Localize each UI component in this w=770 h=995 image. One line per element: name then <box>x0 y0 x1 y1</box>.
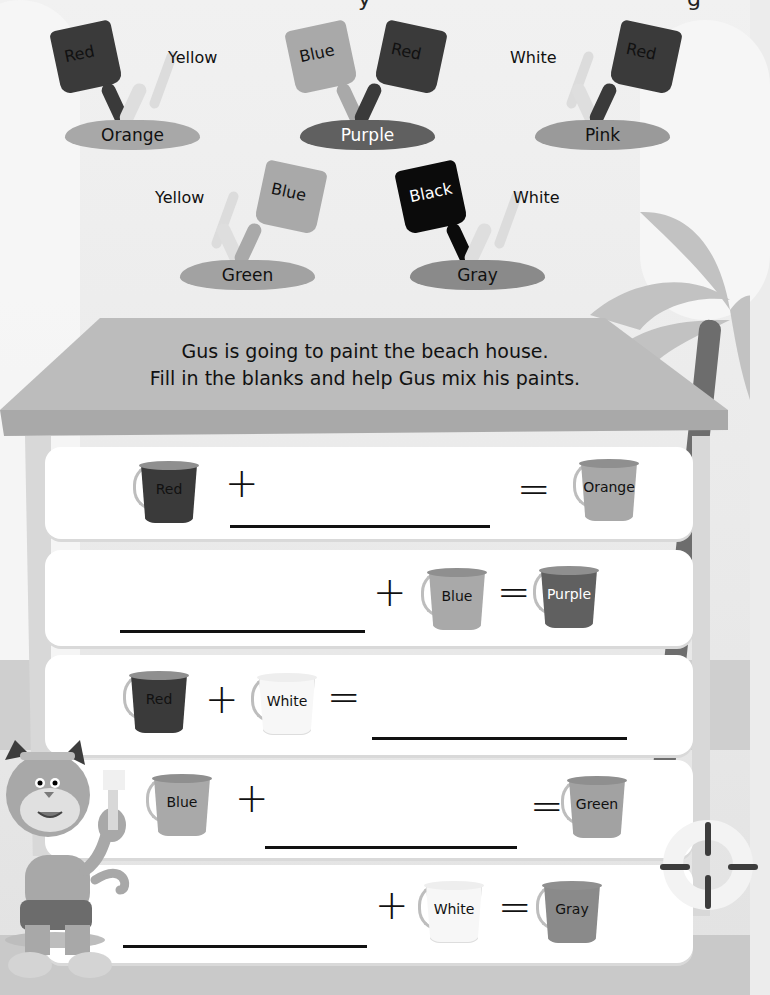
heading-fragment: g <box>687 0 701 11</box>
result-label: Gray <box>410 260 545 290</box>
bucket-label: White <box>259 693 315 709</box>
result-label: Green <box>180 260 315 290</box>
plus-sign: + <box>373 572 407 612</box>
result-puddle: Orange <box>65 120 200 150</box>
bucket-rim <box>567 776 627 785</box>
result-puddle: Pink <box>535 120 670 150</box>
bucket-label: Green <box>569 796 625 812</box>
paint-bucket-white: White <box>253 671 315 735</box>
paint-bucket-purple: Purple <box>535 564 597 628</box>
paint-label: White <box>510 48 557 67</box>
equals-sign: = <box>327 677 361 717</box>
bucket-label: Red <box>131 691 187 707</box>
equation-row: +Blue=Purple <box>45 550 693 646</box>
equation-row: +White=Gray <box>45 865 693 963</box>
life-ring-strap <box>705 875 711 909</box>
paint-mix-illustration: RedYellowOrange <box>50 20 200 160</box>
paint-bucket-green: Green <box>563 774 625 838</box>
bucket-rim <box>427 568 487 577</box>
result-label: Orange <box>65 120 200 150</box>
result-label: Pink <box>535 120 670 150</box>
bucket-rim <box>579 459 639 468</box>
bucket-label: Blue <box>429 588 485 604</box>
equation-row: Blue+=Green <box>45 760 693 858</box>
paint-label: Black <box>408 179 454 207</box>
paint-bucket-blue: Blue <box>148 772 210 836</box>
plus-sign: + <box>225 463 259 503</box>
heading-fragment: y <box>358 0 371 11</box>
paint-label: Blue <box>269 179 308 205</box>
paint-bucket-red: Red <box>135 459 197 523</box>
life-ring-strap <box>705 822 711 856</box>
bucket-rim <box>152 774 212 783</box>
paint-bucket-orange: Orange <box>575 457 637 521</box>
pour-bucket-blue: Blue <box>254 159 328 234</box>
equals-sign: = <box>498 887 532 927</box>
paint-mix-illustration: BlackWhiteGray <box>395 160 545 300</box>
paint-bucket-gray: Gray <box>538 879 600 943</box>
paint-label: Red <box>389 39 423 64</box>
result-puddle: Purple <box>300 120 435 150</box>
life-ring-strap <box>660 864 690 870</box>
life-ring-strap <box>728 864 758 870</box>
equals-sign: = <box>497 572 531 612</box>
answer-blank-line[interactable] <box>265 846 517 849</box>
answer-blank-line[interactable] <box>372 737 627 740</box>
paint-label: Yellow <box>155 188 204 207</box>
instruction-line-1: Gus is going to paint the beach house. <box>0 338 730 365</box>
paint-bucket-white: White <box>420 879 482 943</box>
bucket-rim <box>139 461 199 470</box>
bucket-label: Red <box>141 481 197 497</box>
bucket-rim <box>539 566 599 575</box>
bucket-rim <box>542 881 602 890</box>
equation-row: Red+=Orange <box>45 447 693 539</box>
paint-label: Red <box>63 41 97 66</box>
bucket-label: Blue <box>154 794 210 810</box>
gus-cat-character <box>0 740 140 985</box>
paint-label: Yellow <box>168 48 217 67</box>
paint-label: Red <box>624 39 658 64</box>
plus-sign: + <box>375 885 409 925</box>
paint-mix-illustration: BlueRedPurple <box>285 20 435 160</box>
equation-row: Red+White= <box>45 655 693 755</box>
instruction-text: Gus is going to paint the beach house. F… <box>0 338 730 392</box>
bucket-rim <box>129 671 189 680</box>
answer-blank-line[interactable] <box>230 525 490 528</box>
bucket-label: Gray <box>544 901 600 917</box>
equals-sign: = <box>530 786 564 826</box>
paint-label: Blue <box>298 40 337 66</box>
equals-sign: = <box>517 469 551 509</box>
paint-bucket-blue: Blue <box>423 566 485 630</box>
instruction-line-2: Fill in the blanks and help Gus mix his … <box>0 365 730 392</box>
bucket-rim <box>424 881 484 890</box>
answer-blank-line[interactable] <box>123 945 367 948</box>
pour-bucket-red: Red <box>374 19 448 94</box>
result-puddle: Green <box>180 260 315 290</box>
plus-sign: + <box>205 679 239 719</box>
bucket-label: White <box>426 901 482 917</box>
bucket-label: Orange <box>581 479 637 495</box>
answer-blank-line[interactable] <box>120 630 365 633</box>
paint-mix-illustration: YellowBlueGreen <box>165 160 315 300</box>
paint-bucket-red: Red <box>125 669 187 733</box>
result-puddle: Gray <box>410 260 545 290</box>
bucket-rim <box>257 673 317 682</box>
paint-mix-illustration: WhiteRedPink <box>520 20 670 160</box>
plus-sign: + <box>235 778 269 818</box>
paint-label: White <box>513 188 560 207</box>
pour-bucket-red: Red <box>609 19 683 94</box>
result-label: Purple <box>300 120 435 150</box>
bucket-label: Purple <box>541 586 597 602</box>
